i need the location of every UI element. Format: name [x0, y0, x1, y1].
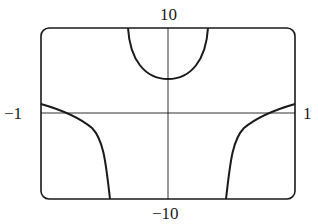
curve-right-branch	[226, 104, 295, 199]
y-min-label: −10	[152, 205, 179, 222]
y-max-label: 10	[160, 6, 177, 23]
x-min-label: −1	[4, 105, 22, 122]
chart-plot	[0, 0, 318, 224]
curve-left-branch	[41, 104, 110, 199]
x-max-label: 1	[303, 105, 312, 122]
